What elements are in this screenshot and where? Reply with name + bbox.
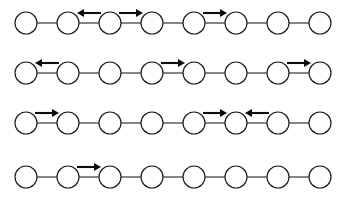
direction-arrow-left — [245, 109, 269, 117]
arrow-head — [178, 59, 185, 67]
arrow-head — [220, 9, 227, 17]
node-circle[interactable] — [57, 166, 79, 188]
node-circle[interactable] — [183, 112, 205, 134]
node-circle[interactable] — [99, 112, 121, 134]
node-circle[interactable] — [15, 112, 37, 134]
direction-arrow-left — [77, 9, 101, 17]
node-circle[interactable] — [57, 12, 79, 34]
node-circle[interactable] — [309, 62, 331, 84]
direction-arrow-right — [203, 9, 227, 17]
node-circle[interactable] — [15, 12, 37, 34]
node-circle[interactable] — [141, 166, 163, 188]
direction-arrow-right — [203, 109, 227, 117]
edges-layer — [37, 23, 309, 177]
node-circle[interactable] — [57, 112, 79, 134]
node-circle[interactable] — [15, 62, 37, 84]
node-circle[interactable] — [309, 12, 331, 34]
direction-arrow-right — [161, 59, 185, 67]
node-circle[interactable] — [183, 166, 205, 188]
node-circle[interactable] — [141, 12, 163, 34]
node-circle[interactable] — [225, 62, 247, 84]
arrow-head — [220, 109, 227, 117]
direction-arrow-right — [77, 163, 101, 171]
arrow-head — [94, 163, 101, 171]
nodes-layer — [15, 12, 331, 188]
graph-canvas — [0, 0, 341, 205]
arrow-head — [35, 59, 42, 67]
node-circle[interactable] — [141, 112, 163, 134]
node-circle[interactable] — [99, 166, 121, 188]
arrow-head — [52, 109, 59, 117]
node-circle[interactable] — [183, 62, 205, 84]
node-chain-diagram — [0, 0, 341, 205]
node-circle[interactable] — [267, 12, 289, 34]
arrow-head — [304, 59, 311, 67]
direction-arrow-right — [35, 109, 59, 117]
direction-arrow-left — [35, 59, 59, 67]
node-circle[interactable] — [141, 62, 163, 84]
direction-arrow-right — [287, 59, 311, 67]
node-circle[interactable] — [267, 166, 289, 188]
node-circle[interactable] — [183, 12, 205, 34]
node-circle[interactable] — [225, 166, 247, 188]
node-circle[interactable] — [99, 62, 121, 84]
node-circle[interactable] — [99, 12, 121, 34]
arrow-head — [77, 9, 84, 17]
node-circle[interactable] — [309, 166, 331, 188]
node-circle[interactable] — [267, 62, 289, 84]
direction-arrow-right — [119, 9, 143, 17]
node-circle[interactable] — [15, 166, 37, 188]
arrow-head — [245, 109, 252, 117]
node-circle[interactable] — [225, 12, 247, 34]
node-circle[interactable] — [225, 112, 247, 134]
arrows-layer — [35, 9, 311, 171]
node-circle[interactable] — [267, 112, 289, 134]
arrow-head — [136, 9, 143, 17]
node-circle[interactable] — [57, 62, 79, 84]
node-circle[interactable] — [309, 112, 331, 134]
